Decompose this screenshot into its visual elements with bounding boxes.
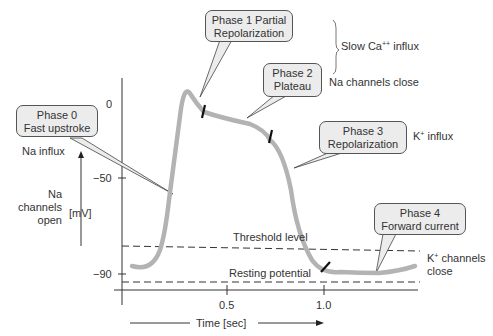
- bracket: [333, 20, 339, 74]
- callout-phase-4: Phase 4 Forward current: [374, 203, 466, 235]
- callout-subtitle: Fast upstroke: [21, 122, 93, 135]
- x-axis-label: Time [sec]: [196, 317, 246, 330]
- label-text: influx: [390, 40, 419, 52]
- superscript: ++: [382, 40, 390, 47]
- threshold-line: [122, 246, 420, 251]
- action-potential-curve: [132, 91, 415, 273]
- callout-phase-3: Phase 3 Repolarization: [319, 121, 407, 154]
- callout-phase-1: Phase 1 Partial Repolarization: [205, 10, 293, 42]
- callout-phase-0: Phase 0 Fast upstroke: [16, 105, 98, 137]
- k-influx-label: K+ influx: [413, 130, 453, 143]
- label-line: close: [427, 265, 486, 278]
- y-tick-minus-90: −90: [93, 268, 112, 281]
- callout-subtitle: Repolarization: [324, 138, 402, 151]
- callout-subtitle: Forward current: [379, 220, 461, 233]
- callout-title: Phase 3: [324, 125, 402, 138]
- y-tick-minus-50: −50: [93, 172, 112, 185]
- na-influx-label: Na influx: [22, 145, 65, 158]
- k-channels-close-label: K+ channels close: [427, 252, 486, 278]
- label-line: Na: [14, 188, 62, 201]
- callout-title: Phase 0: [21, 109, 93, 122]
- arrow-right-icon: [316, 320, 324, 326]
- arrow-up-icon: [78, 151, 84, 158]
- na-channels-open-label: Na channels open: [14, 188, 62, 227]
- label-text: Slow Ca: [341, 40, 382, 52]
- label-line: open: [14, 214, 62, 227]
- y-tick-0: 0: [106, 98, 112, 111]
- callout-title: Phase 2: [268, 67, 317, 80]
- threshold-level-label: Threshold level: [233, 231, 308, 244]
- slow-ca-influx-label: Slow Ca++ influx: [341, 40, 419, 53]
- callout-phase-2: Phase 2 Plateau: [263, 63, 322, 97]
- label-text: influx: [424, 130, 453, 142]
- callout-title: Phase 1 Partial: [210, 14, 288, 27]
- callout-subtitle: Repolarization: [210, 27, 288, 40]
- y-axis-unit: [mV]: [69, 207, 92, 220]
- action-potential-graph: [0, 0, 493, 336]
- callout-title: Phase 4: [379, 207, 461, 220]
- resting-potential-label: Resting potential: [229, 267, 311, 280]
- label-line: channels: [14, 201, 62, 214]
- x-tick-0-5: 0.5: [219, 299, 234, 312]
- x-tick-1-0: 1.0: [316, 299, 331, 312]
- label-text: channels: [438, 252, 485, 264]
- callout-subtitle: Plateau: [268, 80, 317, 93]
- na-channels-close-label: Na channels close: [329, 76, 419, 89]
